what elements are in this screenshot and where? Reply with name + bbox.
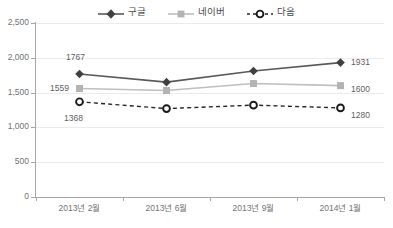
data-point: [163, 87, 170, 94]
data-point: [76, 85, 83, 92]
data-label-naver-first: 1559: [50, 83, 69, 93]
series-line-google: [80, 63, 341, 83]
data-point: [162, 78, 171, 87]
series-layer: [0, 0, 393, 228]
data-label-google-last: 1931: [351, 57, 370, 67]
data-point: [76, 98, 83, 105]
data-point: [250, 102, 257, 109]
series-line-daum: [80, 102, 341, 109]
data-label-daum-first: 1368: [64, 113, 83, 123]
data-label-naver-last: 1600: [351, 84, 370, 94]
data-point: [250, 80, 257, 87]
data-point: [337, 82, 344, 89]
data-point: [249, 67, 258, 76]
data-point: [336, 58, 345, 67]
series-line-naver: [80, 84, 341, 91]
data-label-google-first: 1767: [66, 52, 85, 62]
data-point: [163, 105, 170, 112]
series-markers-google: [75, 58, 345, 86]
line-chart: 구글 네이버 다음: [0, 0, 393, 228]
data-point: [337, 105, 344, 112]
data-label-daum-last: 1280: [351, 110, 370, 120]
data-point: [75, 70, 84, 79]
